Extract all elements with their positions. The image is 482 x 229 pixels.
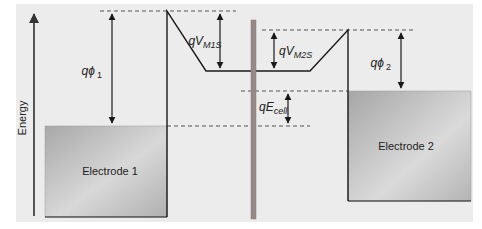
electrode-2-label: Electrode 2 [378,140,434,152]
electrode-1: Electrode 1 [45,126,167,217]
electrode-1-label: Electrode 1 [82,165,138,177]
membrane [251,20,256,219]
electrode-2: Electrode 2 [348,91,471,201]
energy-axis-label: Energy [16,100,28,135]
energy-band-diagram: Energy Electrode 1 Electrode 2 qϕ1 qVM1S… [0,0,482,229]
